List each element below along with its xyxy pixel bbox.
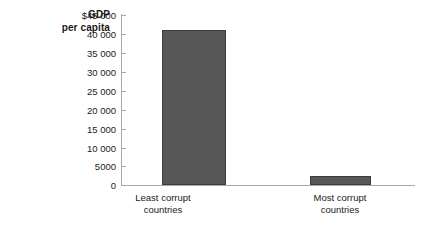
x-axis-label-0-line-1: Least corrupt: [112, 192, 214, 204]
y-tick-label-25000: 25 000: [0, 87, 116, 97]
x-axis-line: [121, 185, 415, 186]
bar-least-corrupt-countries: [162, 30, 226, 185]
plot-area: [121, 15, 415, 185]
y-tick-label-35000: 35 000: [0, 49, 116, 59]
y-tick-label-45000: $45 000: [0, 11, 116, 21]
x-axis-label-1-line-1: Most corrupt: [290, 192, 390, 204]
bar-most-corrupt-countries: [310, 176, 371, 185]
x-axis-label-1-line-2: countries: [290, 204, 390, 216]
gdp-corruption-bar-chart: GDP per capita $45 000 40 000 35 000 30 …: [0, 0, 432, 229]
y-tick-label-15000: 15 000: [0, 125, 116, 135]
y-tick-label-0: 0: [0, 181, 116, 191]
x-axis-label-0-line-2: countries: [112, 204, 214, 216]
y-tick-label-40000: 40 000: [0, 30, 116, 40]
y-tick-label-5000: 5000: [0, 162, 116, 172]
y-tick-label-20000: 20 000: [0, 106, 116, 116]
x-axis-label-most-corrupt-countries: Most corrupt countries: [290, 192, 390, 216]
y-tick-label-30000: 30 000: [0, 68, 116, 78]
x-axis-label-least-corrupt-countries: Least corrupt countries: [112, 192, 214, 216]
y-tick-label-10000: 10 000: [0, 144, 116, 154]
